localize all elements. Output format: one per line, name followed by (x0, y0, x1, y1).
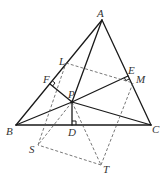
right-angle-mark-f (53, 81, 56, 86)
dashed-mt (101, 83, 133, 165)
label-l: L (59, 56, 65, 67)
segment-pb (16, 102, 72, 125)
label-e: E (128, 65, 135, 76)
geometry-diagram: A B C P D E F L M S T (0, 0, 164, 182)
side-ab (16, 20, 102, 125)
label-d: D (68, 127, 76, 138)
dashed-ts (38, 145, 101, 165)
point-p-dot (71, 101, 74, 104)
segment-pc (72, 102, 151, 125)
label-a: A (97, 8, 104, 19)
label-f: F (43, 74, 50, 85)
label-m: M (136, 74, 145, 85)
label-s: S (29, 144, 35, 155)
label-t: T (103, 164, 109, 175)
dashed-pt (72, 102, 101, 165)
label-p: P (68, 89, 75, 100)
label-c: C (152, 124, 159, 135)
diagram-svg (0, 0, 164, 182)
label-b: B (6, 126, 13, 137)
